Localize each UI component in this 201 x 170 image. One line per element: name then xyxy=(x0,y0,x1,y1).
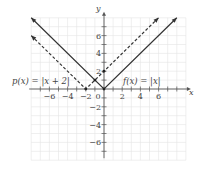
svg-text:−4: −4 xyxy=(62,92,74,101)
svg-text:−2: −2 xyxy=(80,92,92,101)
y-axis-label: y xyxy=(95,4,101,13)
svg-text:6: 6 xyxy=(96,32,101,41)
f-function-label: f(x) = |x| xyxy=(122,76,161,87)
svg-text:4: 4 xyxy=(96,49,101,58)
svg-text:6: 6 xyxy=(156,92,161,101)
svg-text:2: 2 xyxy=(120,92,125,101)
tick-labels: −6−4−20246−6−4−2246 xyxy=(44,32,162,148)
p-function-label: p(x) = |x + 2| xyxy=(12,76,70,87)
svg-text:0: 0 xyxy=(95,92,100,101)
svg-text:−6: −6 xyxy=(44,92,56,101)
svg-text:−2: −2 xyxy=(89,103,101,112)
svg-text:4: 4 xyxy=(138,92,143,101)
x-axis-label: x xyxy=(189,88,194,97)
svg-text:−4: −4 xyxy=(89,121,101,130)
chart: −6−4−20246−6−4−2246 x y p(x) = |x + 2| f… xyxy=(0,0,201,170)
svg-text:−6: −6 xyxy=(89,138,101,147)
